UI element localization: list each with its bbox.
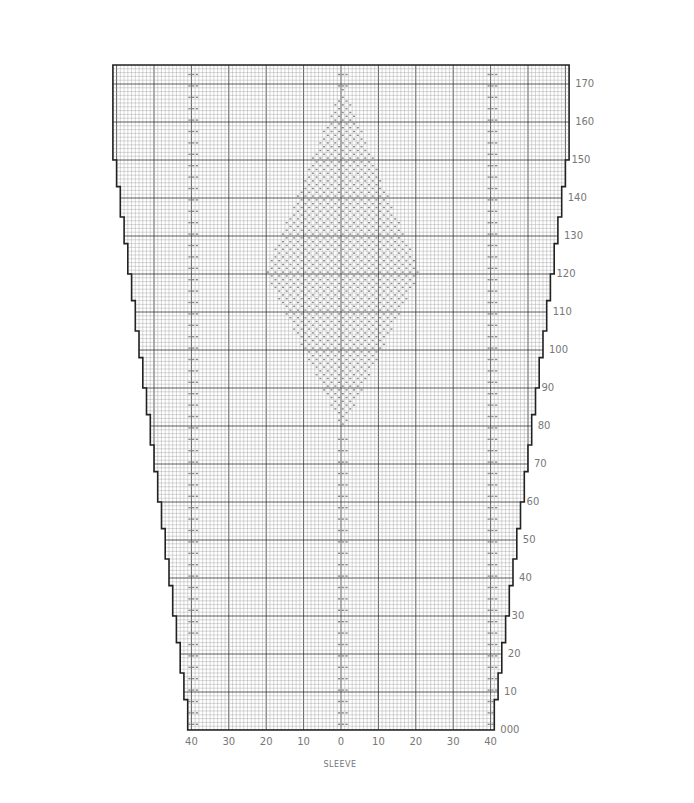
- y-tick-label: 40: [519, 572, 532, 583]
- y-tick-label: 20: [508, 648, 521, 659]
- y-tick-label: 10: [504, 686, 517, 697]
- x-tick-label: 20: [409, 736, 422, 747]
- y-tick-label: 170: [575, 78, 594, 89]
- y-tick-label: 60: [527, 496, 540, 507]
- y-tick-label: 130: [564, 230, 583, 241]
- x-tick-label: 20: [260, 736, 273, 747]
- y-tick-label: 50: [523, 534, 536, 545]
- x-tick-label: 10: [297, 736, 310, 747]
- chart-title: SLEEVE: [323, 760, 356, 769]
- y-tick-label: 90: [541, 382, 554, 393]
- x-tick-label: 30: [447, 736, 460, 747]
- y-tick-label: 160: [575, 116, 594, 127]
- y-tick-label: 140: [568, 192, 587, 203]
- y-tick-label: 150: [571, 154, 590, 165]
- x-tick-label: 40: [484, 736, 497, 747]
- x-tick-label: 0: [338, 736, 344, 747]
- y-tick-label: 70: [534, 458, 547, 469]
- y-tick-label: 000: [500, 724, 519, 735]
- x-tick-label: 10: [372, 736, 385, 747]
- y-tick-label: 110: [553, 306, 572, 317]
- y-tick-label: 30: [512, 610, 525, 621]
- x-tick-label: 40: [185, 736, 198, 747]
- x-tick-label: 30: [222, 736, 235, 747]
- y-tick-label: 120: [556, 268, 575, 279]
- y-tick-label: 80: [538, 420, 551, 431]
- y-tick-label: 100: [549, 344, 568, 355]
